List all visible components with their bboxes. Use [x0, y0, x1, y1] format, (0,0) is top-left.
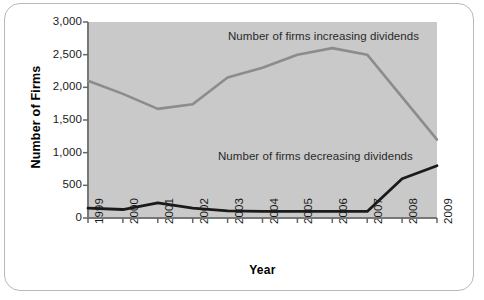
line-series-decreasing — [88, 166, 437, 212]
dividends-line-chart: 3,000 2,500 2,000 1,500 1,000 500 0 Numb… — [0, 0, 484, 300]
axis-ticks — [83, 22, 437, 223]
axis-lines — [88, 22, 437, 218]
chart-svg — [0, 0, 484, 300]
line-series-increasing — [88, 48, 437, 139]
